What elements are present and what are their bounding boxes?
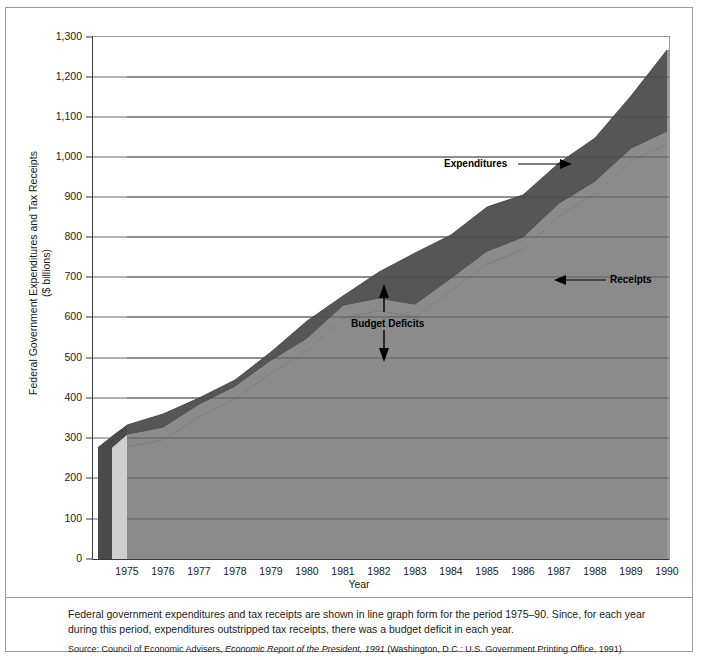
y-axis-tickmarks xyxy=(86,37,93,559)
x-axis-label: Year xyxy=(6,578,692,590)
annotation-expenditures: Expenditures xyxy=(444,158,507,169)
right-end-cap xyxy=(667,50,669,559)
annotation-receipts: Receipts xyxy=(610,274,652,285)
x-axis-label-text: Year xyxy=(348,578,369,590)
caption-source-suffix: (Washington, D.C.: U.S. Government Print… xyxy=(385,644,625,654)
caption-description: Federal government expenditures and tax … xyxy=(68,607,660,636)
caption-block: Federal government expenditures and tax … xyxy=(6,597,692,653)
caption-source: Source: Council of Economic Advisers, Ec… xyxy=(68,643,660,655)
x-tick-1990: 1990 xyxy=(645,565,689,577)
caption-source-title: Economic Report of the President, 1991 xyxy=(225,644,385,654)
plot-area xyxy=(6,8,692,596)
figure-panel: Federal Government Expenditures and Tax … xyxy=(5,7,693,652)
receipts-left-wall xyxy=(112,435,127,559)
expenditures-left-backwall xyxy=(98,447,112,559)
chart-region: Federal Government Expenditures and Tax … xyxy=(6,8,692,596)
annotation-budget-deficits: Budget Deficits xyxy=(351,318,424,329)
caption-source-prefix: Source: Council of Economic Advisers, xyxy=(68,644,225,654)
